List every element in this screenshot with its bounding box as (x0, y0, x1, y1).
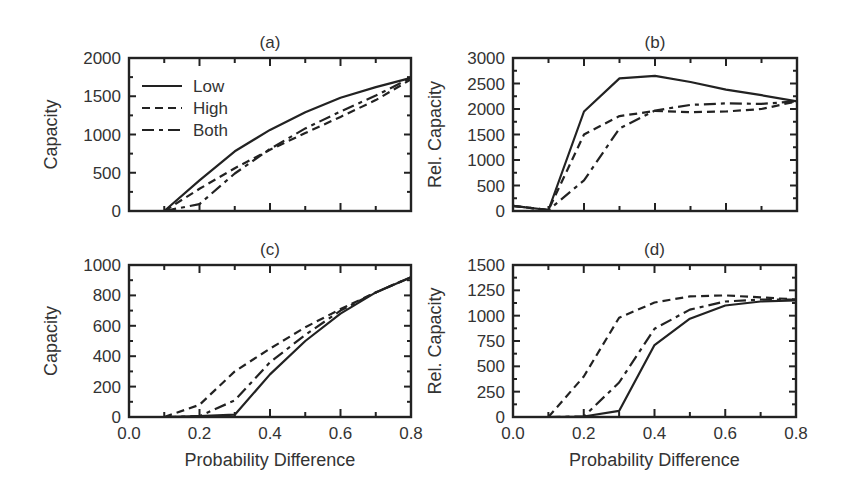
y-tick-label: 500 (477, 177, 505, 196)
x-tick-label: 0.4 (258, 424, 282, 443)
series-line-low (513, 76, 797, 210)
y-tick-label: 2000 (83, 49, 121, 68)
y-tick-label: 500 (93, 164, 121, 183)
y-tick-label: 600 (93, 317, 121, 336)
y-axis-title: Rel. Capacity (425, 81, 445, 188)
x-tick-label: 0.6 (329, 424, 353, 443)
series-line-both (548, 300, 796, 418)
y-tick-label: 250 (477, 383, 505, 402)
series-line-low (164, 78, 411, 211)
y-tick-label: 1500 (467, 256, 505, 275)
legend-label-low: Low (193, 77, 225, 96)
y-axis-title: Capacity (41, 306, 61, 376)
series-line-low (164, 277, 411, 417)
series-line-high (164, 277, 411, 417)
y-tick-label: 3000 (467, 49, 505, 68)
y-tick-label: 750 (477, 332, 505, 351)
x-tick-label: 0.0 (501, 424, 525, 443)
y-tick-label: 200 (93, 378, 121, 397)
series-line-both (164, 277, 411, 417)
plot-frame (513, 265, 796, 417)
y-tick-label: 1500 (467, 126, 505, 145)
y-tick-label: 2000 (467, 100, 505, 119)
panel-title: (c) (260, 240, 280, 259)
y-tick-label: 2500 (467, 75, 505, 94)
x-tick-label: 0.8 (784, 424, 808, 443)
y-axis-title: Capacity (41, 99, 61, 169)
panel-d: (d)02505007501000125015000.00.20.40.60.8… (425, 240, 808, 470)
figure: (a)0500100015002000CapacityLowHighBoth (… (0, 0, 841, 495)
x-tick-label: 0.2 (188, 424, 212, 443)
series-line-both (164, 78, 411, 211)
x-axis-title: Probability Difference (185, 450, 356, 470)
x-tick-label: 0.4 (643, 424, 667, 443)
panel-title: (a) (260, 33, 281, 52)
series-line-low (548, 301, 796, 418)
y-tick-label: 1000 (83, 126, 121, 145)
x-axis-title: Probability Difference (569, 450, 740, 470)
y-tick-label: 1000 (467, 307, 505, 326)
legend-label-both: Both (193, 121, 228, 140)
y-tick-label: 500 (477, 357, 505, 376)
y-tick-label: 1000 (83, 256, 121, 275)
y-tick-label: 800 (93, 286, 121, 305)
legend: LowHighBoth (142, 77, 228, 140)
x-tick-label: 0.0 (117, 424, 141, 443)
plot-frame (129, 265, 411, 417)
y-tick-label: 1500 (83, 87, 121, 106)
x-tick-label: 0.2 (572, 424, 596, 443)
series-line-high (548, 295, 796, 417)
panel-title: (d) (644, 240, 665, 259)
y-axis-title: Rel. Capacity (425, 287, 445, 394)
panel-a: (a)0500100015002000CapacityLowHighBoth (41, 33, 411, 221)
y-tick-label: 0 (112, 202, 121, 221)
plot-frame (129, 58, 411, 211)
y-tick-label: 0 (496, 202, 505, 221)
panel-c: (c)020040060080010000.00.20.40.60.8Proba… (41, 240, 423, 470)
series-line-high (513, 101, 797, 210)
y-tick-label: 1000 (467, 151, 505, 170)
x-tick-label: 0.8 (399, 424, 423, 443)
y-tick-label: 1250 (467, 281, 505, 300)
x-tick-label: 0.6 (713, 424, 737, 443)
panel-title: (b) (645, 33, 666, 52)
panel-b: (b)050010001500200025003000Rel. Capacity (425, 33, 797, 221)
y-tick-label: 400 (93, 347, 121, 366)
legend-label-high: High (193, 99, 228, 118)
